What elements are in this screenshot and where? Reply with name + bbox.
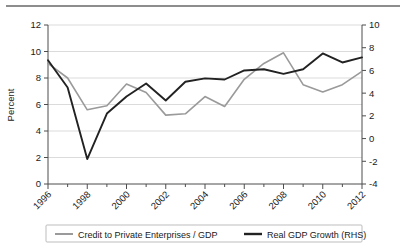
x-axis-tick-label: 2002 (148, 189, 171, 212)
right-tick-label: 0 (369, 133, 374, 144)
x-axis-tick-label: 1996 (31, 189, 54, 212)
series-line-real-gdp-growth (48, 53, 362, 159)
left-tick-label: 2 (36, 152, 41, 163)
x-axis-ticks-group (48, 184, 362, 189)
gridlines-group (48, 25, 362, 158)
chart-figure: 024681012 -4-20246810 Percent 1996199820… (0, 0, 406, 243)
legend-label-credit-to-private-enterprises-gdp: Credit to Private Enterprises / GDP (78, 230, 218, 240)
x-axis-tick-label: 2008 (266, 189, 289, 212)
x-axis-tick-label: 2012 (345, 189, 368, 212)
line-chart: 024681012 -4-20246810 Percent 1996199820… (0, 0, 406, 243)
right-tick-label: -4 (369, 178, 377, 189)
right-tick-label: -2 (369, 156, 377, 167)
left-tick-label: 12 (30, 19, 41, 30)
left-tick-label: 8 (36, 72, 41, 83)
top-divider-rule (6, 5, 400, 7)
left-axis-ticks-group: 024681012 (30, 19, 48, 189)
left-axis-title: Percent (5, 88, 16, 121)
right-tick-label: 6 (369, 65, 374, 76)
left-tick-label: 10 (30, 46, 41, 57)
series-line-credit-to-private-enterprises-gdp (48, 53, 362, 115)
right-tick-label: 10 (369, 19, 380, 30)
legend-label-real-gdp-growth: Real GDP Growth (RHS) (267, 230, 366, 240)
x-axis-tick-label: 2010 (305, 189, 328, 212)
right-tick-label: 4 (369, 88, 374, 99)
right-axis-ticks-group: -4-20246810 (362, 19, 380, 189)
right-tick-label: 8 (369, 42, 374, 53)
left-tick-label: 6 (36, 99, 41, 110)
x-axis-tick-label: 2004 (188, 189, 211, 212)
left-tick-label: 0 (36, 178, 41, 189)
left-tick-label: 4 (36, 125, 41, 136)
x-axis-tick-label: 2000 (109, 189, 132, 212)
right-tick-label: 2 (369, 110, 374, 121)
x-axis-tick-label: 1998 (70, 189, 93, 212)
x-axis-tick-label: 2006 (227, 189, 250, 212)
x-axis-tick-labels-group: 199619982000200220042006200820102012 (31, 189, 368, 212)
